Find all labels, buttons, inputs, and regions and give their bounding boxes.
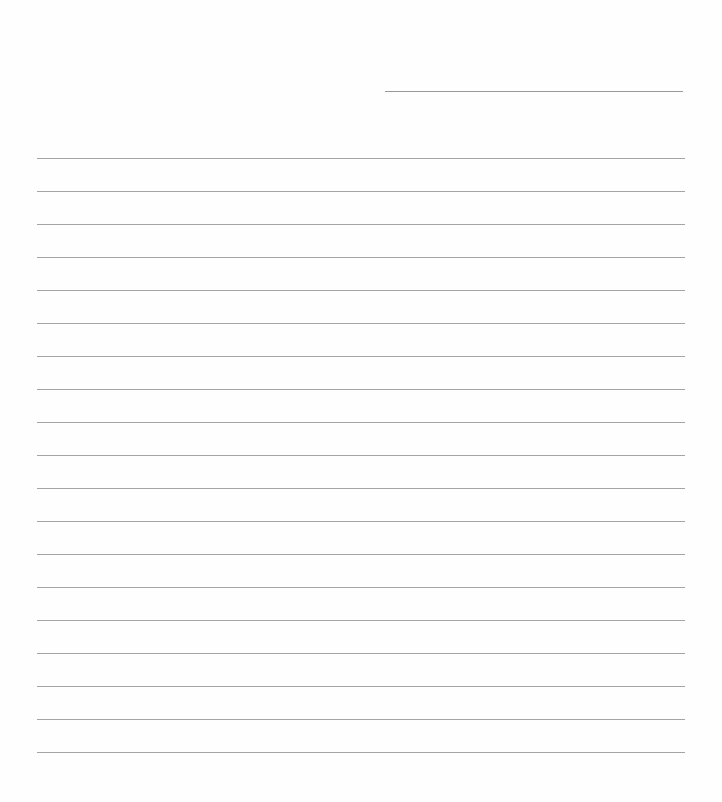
ruled-line [37, 290, 685, 291]
ruled-line [37, 422, 685, 423]
ruled-line [37, 356, 685, 357]
ruled-line [37, 587, 685, 588]
ruled-line [37, 554, 685, 555]
ruled-line [37, 455, 685, 456]
ruled-line [37, 620, 685, 621]
ruled-line [37, 257, 685, 258]
ruled-line [37, 158, 685, 159]
ruled-line [37, 191, 685, 192]
ruled-line [37, 488, 685, 489]
ruled-line [37, 653, 685, 654]
ruled-line [37, 521, 685, 522]
ruled-line [37, 389, 685, 390]
ruled-line [37, 719, 685, 720]
ruled-line [37, 224, 685, 225]
lined-paper-page [0, 0, 722, 802]
ruled-line [37, 752, 685, 753]
ruled-line [37, 323, 685, 324]
ruled-lines [0, 0, 722, 802]
ruled-line [37, 686, 685, 687]
